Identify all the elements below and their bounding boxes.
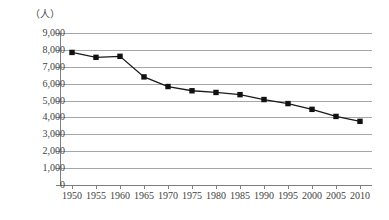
x-tick-mark-1970 (168, 185, 169, 189)
x-tick-mark-2005 (336, 185, 337, 189)
y-tick-label-6000: 6,000 (9, 79, 65, 89)
x-tick-mark-1950 (72, 185, 73, 189)
series-markers (69, 50, 362, 124)
x-tick-label-2010: 2010 (343, 190, 377, 201)
data-point-1960 (117, 54, 122, 59)
y-tick-label-5000: 5,000 (9, 96, 65, 106)
data-point-1985 (237, 92, 242, 97)
line-chart: （人） 9,0008,0007,0006,0005,0004,0003,0002… (0, 0, 389, 220)
y-tick-label-2000: 2,000 (9, 146, 65, 156)
y-tick-label-9000: 9,000 (9, 28, 65, 38)
x-tick-mark-2010 (360, 185, 361, 189)
x-tick-mark-1985 (240, 185, 241, 189)
x-tick-mark-1975 (192, 185, 193, 189)
data-point-1980 (213, 90, 218, 95)
y-tick-label-3000: 3,000 (9, 129, 65, 139)
plot-area (60, 33, 372, 185)
y-tick-label-8000: 8,000 (9, 45, 65, 55)
x-tick-mark-1980 (216, 185, 217, 189)
y-tick-label-7000: 7,000 (9, 62, 65, 72)
x-tick-mark-1960 (120, 185, 121, 189)
data-point-1950 (69, 50, 74, 55)
y-tick-label-1000: 1,000 (9, 163, 65, 173)
y-axis-unit-label: （人） (24, 9, 60, 21)
series-population (60, 33, 372, 185)
x-tick-mark-1955 (96, 185, 97, 189)
data-point-1970 (165, 84, 170, 89)
data-point-1990 (261, 97, 266, 102)
data-point-1955 (93, 55, 98, 60)
x-tick-mark-2000 (312, 185, 313, 189)
data-point-1975 (189, 88, 194, 93)
data-point-1995 (285, 101, 290, 106)
data-point-2000 (309, 107, 314, 112)
series-line-path (72, 52, 360, 121)
x-tick-mark-1995 (288, 185, 289, 189)
x-tick-mark-1990 (264, 185, 265, 189)
data-point-1965 (141, 74, 146, 79)
y-tick-label-0: 0 (9, 180, 65, 190)
y-tick-label-4000: 4,000 (9, 112, 65, 122)
data-point-2005 (333, 114, 338, 119)
data-point-2010 (357, 119, 362, 124)
x-tick-mark-1965 (144, 185, 145, 189)
